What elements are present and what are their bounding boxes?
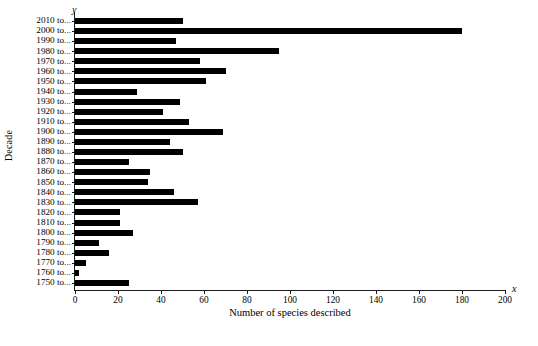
- bar: [75, 189, 174, 195]
- category-tick-label: 1960 to...: [36, 67, 71, 76]
- category-tick: [72, 212, 75, 213]
- category-tick: [72, 182, 75, 183]
- x-axis-tick-label: 20: [113, 295, 122, 305]
- category-tick-label: 1980 to...: [36, 47, 71, 56]
- bar: [75, 99, 180, 105]
- bar: [75, 139, 170, 145]
- x-axis-tick-label: 180: [455, 295, 469, 305]
- bar: [75, 179, 148, 185]
- category-tick: [72, 41, 75, 42]
- bar: [75, 78, 206, 84]
- bar: [75, 119, 189, 125]
- category-tick-label: 1810 to...: [36, 218, 71, 227]
- x-axis-tick-label: 0: [73, 295, 78, 305]
- bar: [75, 209, 120, 215]
- bar: [75, 280, 129, 286]
- x-axis-letter: x: [512, 283, 516, 294]
- category-tick-label: 1910 to...: [36, 117, 71, 126]
- category-tick-label: 1890 to...: [36, 137, 71, 146]
- bar: [75, 240, 99, 246]
- category-tick: [72, 172, 75, 173]
- category-tick: [72, 162, 75, 163]
- category-tick: [72, 21, 75, 22]
- category-tick-label: 2010 to...: [36, 16, 71, 25]
- category-tick-label: 1850 to...: [36, 178, 71, 187]
- category-tick-label: 1880 to...: [36, 147, 71, 156]
- category-tick-label: 1950 to...: [36, 77, 71, 86]
- bar: [75, 58, 200, 64]
- category-tick: [72, 192, 75, 193]
- category-tick: [72, 253, 75, 254]
- category-tick: [72, 81, 75, 82]
- category-tick-label: 1750 to...: [36, 278, 71, 287]
- x-axis-title: Number of species described: [75, 307, 505, 318]
- bar: [75, 18, 183, 24]
- category-tick: [72, 112, 75, 113]
- category-tick-labels: 2010 to...2000 to...1990 to...1980 to...…: [18, 18, 74, 290]
- category-tick: [72, 122, 75, 123]
- category-tick: [72, 102, 75, 103]
- category-tick-label: 1870 to...: [36, 157, 71, 166]
- bar: [75, 28, 462, 34]
- bar: [75, 38, 176, 44]
- bar: [75, 270, 79, 276]
- x-axis-tick-mark: [462, 290, 463, 294]
- bar: [75, 199, 198, 205]
- x-axis-tick-label: 80: [242, 295, 251, 305]
- y-axis-title-text: Decade: [4, 129, 15, 160]
- category-tick-label: 1800 to...: [36, 228, 71, 237]
- category-tick-label: 1760 to...: [36, 268, 71, 277]
- x-axis-tick-label: 100: [283, 295, 297, 305]
- bar: [75, 149, 183, 155]
- category-tick-label: 1840 to...: [36, 188, 71, 197]
- bar: [75, 250, 109, 256]
- category-tick: [72, 152, 75, 153]
- x-axis-tick-mark: [247, 290, 248, 294]
- category-tick: [72, 31, 75, 32]
- category-tick-label: 1790 to...: [36, 238, 71, 247]
- category-tick: [72, 273, 75, 274]
- bar: [75, 260, 86, 266]
- category-tick-label: 1900 to...: [36, 127, 71, 136]
- category-tick: [72, 243, 75, 244]
- category-tick: [72, 202, 75, 203]
- category-tick: [72, 263, 75, 264]
- category-tick-label: 1990 to...: [36, 36, 71, 45]
- x-axis-tick-mark: [419, 290, 420, 294]
- x-axis-tick-mark: [333, 290, 334, 294]
- category-tick: [72, 51, 75, 52]
- bar-chart-figure: Decade y x 2010 to...2000 to...1990 to..…: [0, 0, 538, 346]
- x-axis-tick-mark: [75, 290, 76, 294]
- category-tick-label: 1930 to...: [36, 97, 71, 106]
- bar: [75, 159, 129, 165]
- bar: [75, 68, 226, 74]
- x-axis-tick-mark: [290, 290, 291, 294]
- category-tick-label: 1820 to...: [36, 208, 71, 217]
- x-axis-tick-mark: [376, 290, 377, 294]
- category-tick: [72, 223, 75, 224]
- category-tick: [72, 283, 75, 284]
- bar: [75, 169, 150, 175]
- x-axis-tick-label: 40: [156, 295, 165, 305]
- category-tick: [72, 92, 75, 93]
- category-tick: [72, 233, 75, 234]
- x-axis-tick-label: 60: [199, 295, 208, 305]
- category-tick: [72, 142, 75, 143]
- bar: [75, 220, 120, 226]
- x-axis-tick-label: 200: [498, 295, 512, 305]
- x-axis-tick-mark: [161, 290, 162, 294]
- category-tick-label: 1920 to...: [36, 107, 71, 116]
- category-tick-label: 1830 to...: [36, 198, 71, 207]
- category-tick-label: 1770 to...: [36, 258, 71, 267]
- bar: [75, 230, 133, 236]
- category-tick-label: 1940 to...: [36, 87, 71, 96]
- x-axis-tick-label: 140: [369, 295, 383, 305]
- x-axis-tick-mark: [505, 290, 506, 294]
- category-tick-label: 2000 to...: [36, 26, 71, 35]
- x-axis-tick-label: 120: [326, 295, 340, 305]
- bar: [75, 89, 137, 95]
- category-tick: [72, 132, 75, 133]
- category-tick-label: 1970 to...: [36, 57, 71, 66]
- y-axis-title: Decade: [0, 0, 18, 290]
- bar: [75, 129, 223, 135]
